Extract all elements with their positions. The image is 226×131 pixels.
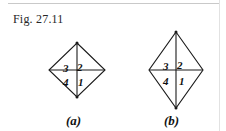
quadrant-number-b-bottom-right: 1 (179, 76, 185, 87)
figure-page: Fig. 27.11 3 2 4 1 3 2 4 1 (a) (b) (0, 0, 226, 131)
quadrant-number-b-top-left: 3 (163, 61, 169, 72)
figure-panel-b: 3 2 4 1 (146, 28, 206, 112)
quadrant-number-b-bottom-left: 4 (163, 76, 169, 87)
bottom-vertex-dot-b (175, 107, 178, 110)
top-vertex-dot-b (175, 31, 178, 34)
quadrant-number-b-top-right: 2 (177, 60, 183, 71)
rhombus-diagram-b (146, 28, 206, 112)
quadrant-number-a-bottom-right: 1 (78, 77, 84, 88)
panel-label-a: (a) (66, 113, 81, 129)
page-top-rule (8, 3, 220, 4)
figure-panel-a: 3 2 4 1 (46, 40, 108, 100)
quadrant-number-a-bottom-left: 4 (63, 77, 69, 88)
page-right-rule (219, 0, 220, 131)
panel-label-b: (b) (164, 113, 179, 129)
quadrant-number-a-top-left: 3 (63, 63, 69, 74)
bottom-vertex-dot-a (76, 96, 79, 99)
figure-caption: Fig. 27.11 (13, 12, 64, 27)
quadrant-number-a-top-right: 2 (77, 62, 83, 73)
top-vertex-dot-a (76, 42, 79, 45)
